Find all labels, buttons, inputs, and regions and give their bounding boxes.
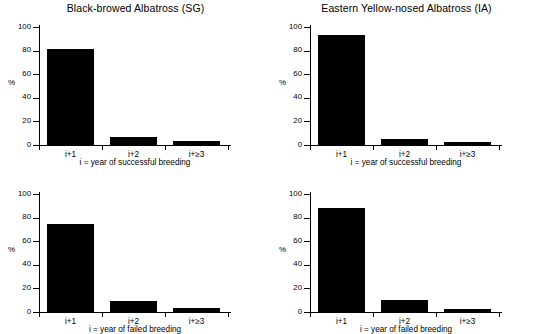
y-axis-tick-label: 80 — [22, 212, 31, 222]
x-axis-tick — [228, 312, 229, 317]
y-axis-tick-label: 100 — [18, 22, 31, 32]
bar — [173, 308, 220, 312]
y-axis-tick: 80 — [33, 218, 39, 219]
y-axis-tick-label: 0 — [27, 140, 31, 150]
y-axis-tick-label: 0 — [298, 140, 302, 150]
bar — [173, 141, 220, 145]
y-axis-tick: 60 — [304, 74, 310, 75]
y-axis-tick-label: 60 — [293, 69, 302, 79]
bar — [47, 224, 94, 313]
y-axis-label: % — [279, 246, 286, 254]
albatross-breeding-figure: Black-browed Albatross (SG)020406080100%… — [0, 0, 542, 334]
y-axis-tick: 20 — [33, 121, 39, 122]
chart-panel-top-right: Eastern Yellow-nosed Albatross (IA)02040… — [271, 0, 542, 167]
y-axis-tick: 40 — [33, 265, 39, 266]
y-axis-tick-label: 40 — [293, 92, 302, 102]
bar — [444, 142, 491, 145]
bar — [381, 300, 428, 312]
x-axis-caption: i = year of successful breeding — [30, 158, 240, 167]
y-axis-tick: 20 — [304, 121, 310, 122]
y-axis-tick: 20 — [33, 288, 39, 289]
y-axis-tick-label: 20 — [22, 116, 31, 126]
y-axis-label: % — [8, 246, 15, 254]
y-axis-tick: 40 — [33, 98, 39, 99]
x-axis-tick — [499, 312, 500, 317]
y-axis-tick: 100 — [33, 27, 39, 28]
x-axis — [310, 312, 502, 313]
bar — [381, 139, 428, 145]
bar — [318, 208, 365, 312]
panel-title: Black-browed Albatross (SG) — [0, 2, 271, 14]
x-axis — [310, 145, 502, 146]
y-axis-tick: 40 — [304, 98, 310, 99]
y-axis-tick: 40 — [304, 265, 310, 266]
y-axis-tick-label: 100 — [289, 22, 302, 32]
bar — [47, 49, 94, 145]
x-axis — [39, 312, 231, 313]
y-axis-tick: 60 — [33, 241, 39, 242]
y-axis-tick: 60 — [304, 241, 310, 242]
chart-panel-top-left: Black-browed Albatross (SG)020406080100%… — [0, 0, 271, 167]
chart-panel-bottom-right: 020406080100%i+1i+2i+≥3i = year of faile… — [271, 167, 542, 334]
y-axis-tick-label: 60 — [22, 236, 31, 246]
y-axis-tick-label: 100 — [289, 189, 302, 199]
x-axis-tick — [228, 145, 229, 150]
y-axis-tick-label: 20 — [293, 116, 302, 126]
y-axis-tick: 100 — [304, 27, 310, 28]
y-axis-tick-label: 40 — [293, 259, 302, 269]
panel-title: Eastern Yellow-nosed Albatross (IA) — [271, 2, 542, 14]
y-axis-tick: 60 — [33, 74, 39, 75]
y-axis — [39, 25, 40, 146]
x-axis-caption: i = year of failed breeding — [30, 325, 240, 334]
bar — [444, 309, 491, 312]
y-axis-tick: 20 — [304, 288, 310, 289]
y-axis-tick-label: 100 — [18, 189, 31, 199]
y-axis-tick-label: 20 — [293, 283, 302, 293]
x-axis — [39, 145, 231, 146]
y-axis-label: % — [8, 79, 15, 87]
y-axis-tick-label: 20 — [22, 283, 31, 293]
y-axis-tick-label: 0 — [298, 307, 302, 317]
y-axis-tick-label: 60 — [293, 236, 302, 246]
y-axis-tick-label: 80 — [293, 212, 302, 222]
y-axis-tick: 100 — [33, 194, 39, 195]
y-axis — [39, 192, 40, 313]
y-axis-tick: 80 — [304, 51, 310, 52]
y-axis-tick: 100 — [304, 194, 310, 195]
y-axis-tick: 80 — [33, 51, 39, 52]
chart-panel-bottom-left: 020406080100%i+1i+2i+≥3i = year of faile… — [0, 167, 271, 334]
y-axis-tick-label: 40 — [22, 259, 31, 269]
y-axis-tick-label: 60 — [22, 69, 31, 79]
bar — [110, 301, 157, 312]
x-axis-caption: i = year of successful breeding — [301, 158, 511, 167]
x-axis-caption: i = year of failed breeding — [301, 325, 511, 334]
y-axis-tick-label: 40 — [22, 92, 31, 102]
y-axis-tick: 80 — [304, 218, 310, 219]
x-axis-tick — [499, 145, 500, 150]
y-axis-label: % — [279, 79, 286, 87]
y-axis-tick-label: 80 — [22, 45, 31, 55]
y-axis-tick-label: 80 — [293, 45, 302, 55]
y-axis — [310, 192, 311, 313]
bar — [110, 137, 157, 145]
bar — [318, 35, 365, 145]
y-axis-tick-label: 0 — [27, 307, 31, 317]
y-axis — [310, 25, 311, 146]
